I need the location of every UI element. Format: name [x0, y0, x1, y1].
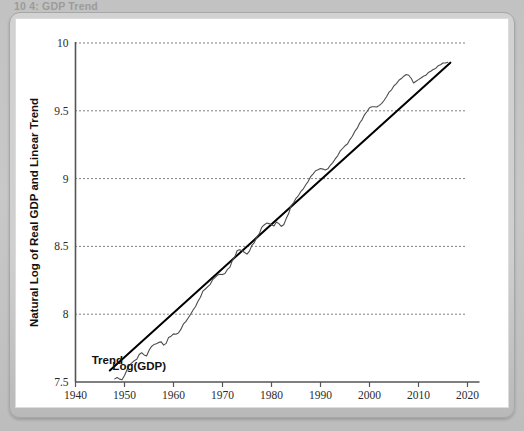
screenshot-root: 10 4: GDP Trend 194019501960197019801990…	[0, 0, 524, 431]
y-tick-label-10: 10	[57, 37, 69, 49]
figure-card-inner: 1940195019601970198019902000201020207.58…	[15, 18, 509, 408]
x-tick-label-2020: 2020	[456, 389, 479, 401]
y-tick-label-9: 9	[63, 173, 69, 185]
chart-container: 1940195019601970198019902000201020207.58…	[15, 18, 509, 408]
y-axis-title: Natural Log of Real GDP and Linear Trend	[28, 98, 40, 327]
y-tick-label-8: 8	[63, 308, 69, 320]
x-tick-label-1990: 1990	[309, 389, 332, 401]
y-tick-label-9.5: 9.5	[54, 105, 69, 117]
y-tick-label-7.5: 7.5	[54, 376, 69, 388]
x-tick-label-2000: 2000	[358, 389, 381, 401]
x-tick-label-1970: 1970	[211, 389, 234, 401]
x-tick-label-1960: 1960	[162, 389, 185, 401]
y-tick-label-8.5: 8.5	[54, 240, 69, 252]
x-tick-label-2010: 2010	[407, 389, 430, 401]
plot-area-background	[76, 43, 468, 382]
x-tick-label-1980: 1980	[260, 389, 283, 401]
gdp-trend-chart: 1940195019601970198019902000201020207.58…	[15, 18, 509, 408]
x-tick-label-1950: 1950	[113, 389, 136, 401]
figure-card: 1940195019601970198019902000201020207.58…	[9, 12, 515, 418]
figure-caption: 10 4: GDP Trend	[0, 0, 524, 12]
loggdp-label: Log(GDP)	[112, 360, 166, 372]
x-tick-label-1940: 1940	[64, 389, 87, 401]
